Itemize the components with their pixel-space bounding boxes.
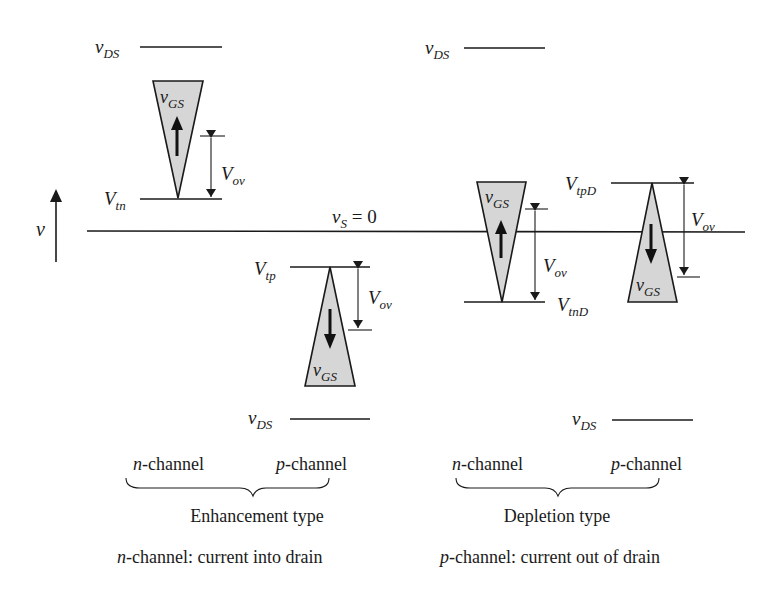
- v-axis-label: v: [36, 218, 45, 240]
- enhancement-n-channel: vDS vGS Vtn Vov: [95, 36, 245, 213]
- vds-label: vDS: [572, 408, 597, 433]
- enhancement-p-channel: Vtp vGS Vov vDS: [248, 258, 392, 432]
- vov-label: Vov: [368, 287, 392, 312]
- caption-n-channel: n-channel: current into drain: [117, 547, 322, 567]
- dep-n-channel-label: n-channel: [452, 454, 523, 474]
- vov-label: Vov: [543, 255, 567, 280]
- vs-zero-label: vS = 0: [332, 206, 377, 231]
- vds-label: vDS: [425, 37, 450, 62]
- depletion-type-label: Depletion type: [504, 506, 610, 526]
- vds-label: vDS: [248, 407, 273, 432]
- vt-label: VtnD: [557, 294, 589, 319]
- depletion-p-channel: VtpD vGS Vov vDS: [565, 173, 715, 433]
- vov-label: Vov: [221, 163, 245, 188]
- enhancement-type-label: Enhancement type: [190, 506, 323, 526]
- voltage-axis-arrow: v: [36, 189, 62, 262]
- dep-p-channel-label: p-channel: [609, 454, 682, 474]
- vt-label: Vtp: [254, 258, 276, 283]
- vds-label: vDS: [95, 36, 120, 61]
- depletion-brace: [456, 478, 659, 496]
- enhancement-brace: [126, 478, 329, 496]
- mosfet-voltage-diagram: vS = 0 v vDS vGS Vtn Vov Vtp: [0, 0, 779, 595]
- enh-p-channel-label: p-channel: [274, 454, 347, 474]
- channel-labels: n-channel p-channel n-channel p-channel …: [117, 454, 682, 567]
- vt-label: VtpD: [565, 173, 597, 198]
- caption-p-channel: p-channel: current out of drain: [438, 547, 660, 567]
- enh-n-channel-label: n-channel: [133, 454, 204, 474]
- vt-label: Vtn: [104, 188, 126, 213]
- arrow-up-icon: [50, 189, 62, 202]
- vov-label: Vov: [691, 209, 715, 234]
